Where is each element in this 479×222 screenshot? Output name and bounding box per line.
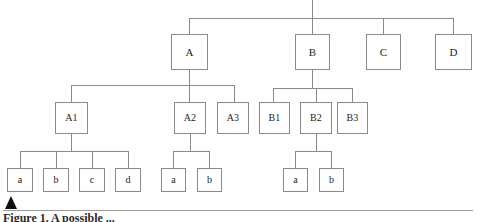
node-label: A3: [227, 113, 240, 123]
node-b2-b[interactable]: b: [319, 168, 344, 192]
node-label: B2: [310, 113, 322, 123]
node-d[interactable]: D: [435, 34, 472, 70]
node-label: b: [207, 175, 212, 185]
node-label: C: [380, 46, 388, 57]
node-b[interactable]: B: [295, 34, 330, 70]
node-a2[interactable]: A2: [174, 102, 206, 134]
node-a2-a[interactable]: a: [161, 168, 186, 192]
node-b3[interactable]: B3: [337, 102, 368, 134]
node-label: a: [171, 175, 176, 185]
node-a1-d[interactable]: d: [115, 168, 141, 192]
node-a[interactable]: A: [171, 34, 208, 70]
node-label: B: [309, 46, 317, 57]
caption-divider: [3, 210, 473, 211]
triangle-marker-icon: [5, 196, 17, 209]
node-a1[interactable]: A1: [55, 102, 88, 134]
figure-caption: Figure 1. A possible ...: [3, 212, 473, 222]
node-label: b: [53, 175, 58, 185]
node-label: B1: [268, 113, 280, 123]
node-b1[interactable]: B1: [259, 102, 290, 134]
node-a1-a[interactable]: a: [7, 168, 33, 192]
node-c[interactable]: C: [366, 34, 401, 70]
node-a2-b[interactable]: b: [197, 168, 222, 192]
node-a3[interactable]: A3: [217, 102, 249, 134]
figure-container: A B C D A1 A2 A3 B1 B2 B3 a b c d a b: [0, 0, 479, 222]
node-a1-c[interactable]: c: [79, 168, 105, 192]
node-label: a: [293, 175, 298, 185]
node-label: b: [329, 175, 334, 185]
node-label: d: [125, 175, 130, 185]
node-a1-b[interactable]: b: [43, 168, 69, 192]
node-label: A2: [184, 113, 197, 123]
node-label: c: [90, 175, 95, 185]
node-label: A1: [65, 113, 78, 123]
node-label: a: [18, 175, 23, 185]
node-b2-a[interactable]: a: [283, 168, 308, 192]
node-label: D: [449, 46, 457, 57]
node-label: A: [185, 46, 193, 57]
node-label: B3: [346, 113, 358, 123]
node-b2[interactable]: B2: [300, 102, 332, 134]
